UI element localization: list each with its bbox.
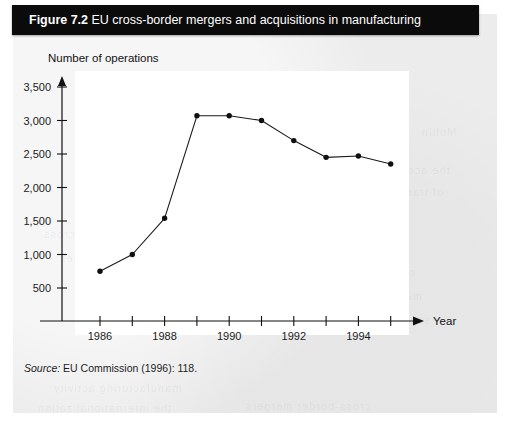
series-line-operations	[100, 116, 391, 271]
x-axis-arrow-icon	[413, 317, 424, 326]
source-note: Source: EU Commission (1996): 118.	[24, 362, 197, 374]
x-axis-title: Year	[433, 315, 456, 327]
data-point-marker	[388, 161, 393, 166]
x-axis-tick-label: 1990	[217, 330, 241, 342]
y-axis-tick-label: 2,500	[23, 148, 51, 160]
source-label: Source:	[24, 362, 60, 374]
y-axis-tick-label: 2,000	[23, 182, 51, 194]
figure-root: Multinthe accouof trannet crossinvescons…	[0, 0, 516, 432]
x-axis-tick-label: 1994	[346, 330, 370, 342]
y-axis-tick-label: 500	[33, 282, 51, 294]
data-point-marker	[97, 269, 102, 274]
y-axis-title: Number of operations	[48, 52, 159, 64]
data-point-marker	[194, 113, 199, 118]
x-axis-tick-label: 1986	[88, 330, 112, 342]
data-point-marker	[162, 216, 167, 221]
bleed-through-text: the internationalization	[37, 402, 171, 414]
x-axis-tick-label: 1988	[152, 330, 176, 342]
data-point-marker	[356, 153, 361, 158]
x-axis-tick-label: 1992	[282, 330, 306, 342]
data-point-marker	[259, 118, 264, 123]
y-axis-tick-label: 1,000	[23, 249, 51, 261]
data-point-marker	[130, 252, 135, 257]
y-axis-arrow-icon	[58, 76, 66, 86]
source-citation: EU Commission (1996): 118.	[60, 362, 197, 374]
data-point-marker	[291, 138, 296, 143]
y-axis-tick-label: 3,500	[23, 81, 51, 93]
y-axis-tick-label: 3,000	[23, 115, 51, 127]
y-axis-tick-label: 1,500	[23, 215, 51, 227]
bleed-through-text: cross-border mergers	[245, 400, 370, 412]
data-point-marker	[323, 155, 328, 160]
line-chart: 5001,0001,5002,0002,5003,0003,5001986198…	[0, 0, 484, 399]
data-point-marker	[227, 113, 232, 118]
